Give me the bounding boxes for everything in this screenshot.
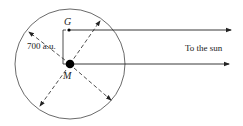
orbit-diagram: G M 700 a.u. To the sun [0, 0, 243, 126]
radial-arrow-lower-right [74, 68, 111, 100]
label-distance: 700 a.u. [27, 41, 56, 51]
label-to-the-sun: To the sun [185, 43, 223, 53]
label-m: M [62, 70, 72, 81]
point-m-dot [66, 60, 75, 69]
radial-arrow-upper-right [70, 21, 100, 64]
label-g: G [64, 16, 71, 27]
point-g-dot [67, 28, 70, 31]
